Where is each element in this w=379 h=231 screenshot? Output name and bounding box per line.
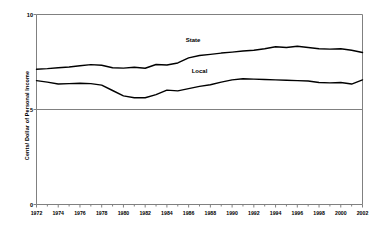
series-label-local: Local [192,68,208,74]
x-tick-label: 1992 [248,210,260,217]
x-tick-label: 1982 [139,210,151,217]
x-tick-label: 1994 [270,210,282,217]
x-tick-label: 1986 [183,210,195,217]
x-tick-label: 1990 [226,210,238,217]
x-tick-label: 1978 [96,210,108,217]
x-tick-label: 1984 [161,210,173,217]
x-tick-label: 1996 [292,210,304,217]
x-tick-label: 1980 [118,210,130,217]
x-tick-label: 1998 [313,210,325,217]
chart-container: Cents/ Dollar of Personal Income 0510 19… [0,0,379,231]
x-tick-label: 1976 [74,210,86,217]
x-tick-label: 1988 [205,210,217,217]
x-tick-label: 1972 [31,210,43,217]
x-axis-tick-labels: 1972197419761978198019821984198619881990… [0,0,379,231]
x-tick-label: 2000 [335,210,347,217]
series-label-state: State [186,37,201,43]
x-tick-label: 2002 [357,210,369,217]
x-tick-label: 1974 [52,210,64,217]
